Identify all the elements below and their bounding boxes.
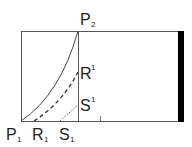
svg-text:P: P <box>80 11 91 28</box>
label-p2: P 2 <box>80 11 96 29</box>
label-r1: R 1 <box>32 126 49 144</box>
svg-text:2: 2 <box>91 20 96 29</box>
svg-text:R: R <box>32 126 44 143</box>
svg-text:1: 1 <box>44 135 49 144</box>
label-s-sup: S 1 <box>80 95 96 114</box>
curve-solid-p1-p2 <box>21 31 78 121</box>
svg-text:S: S <box>80 97 91 114</box>
svg-text:1: 1 <box>17 135 22 144</box>
label-p1: P 1 <box>6 126 22 144</box>
svg-text:P: P <box>6 126 17 143</box>
frame-rectangle <box>22 32 179 122</box>
label-s1: S 1 <box>59 126 75 144</box>
svg-text:R: R <box>80 65 92 82</box>
curve-dashed-r <box>34 72 78 121</box>
svg-text:1: 1 <box>70 135 75 144</box>
svg-text:S: S <box>59 126 70 143</box>
svg-text:1: 1 <box>91 63 96 72</box>
diagram-canvas: P 2 R 1 S 1 P 1 R 1 S 1 <box>0 0 192 147</box>
right-black-bar <box>178 31 184 122</box>
curve-dotted-s <box>60 105 78 121</box>
svg-text:1: 1 <box>91 95 96 104</box>
label-r-sup: R 1 <box>80 63 96 82</box>
